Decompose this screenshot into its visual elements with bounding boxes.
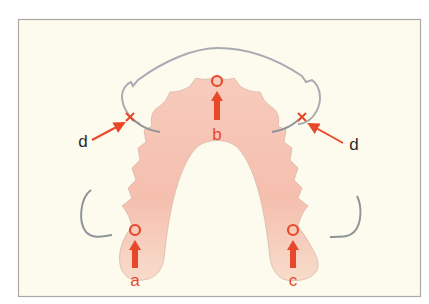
denture-diagram: a b c d d: [0, 0, 429, 304]
label-a: a: [130, 271, 140, 290]
figure-frame: [19, 20, 421, 297]
label-d-right: d: [349, 135, 358, 154]
label-b: b: [212, 125, 221, 144]
label-c: c: [289, 271, 298, 290]
label-d-left: d: [78, 132, 87, 151]
